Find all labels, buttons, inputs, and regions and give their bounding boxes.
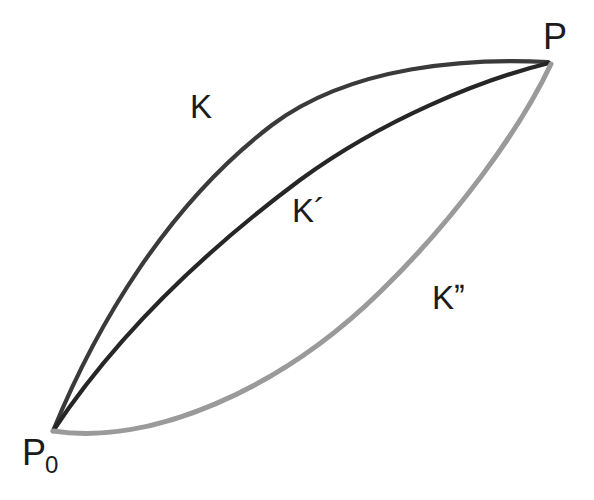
point-label-p: P: [543, 19, 567, 55]
point-label-p0-base: P: [22, 432, 46, 473]
figure-canvas: K K´ Kˮ P P0: [0, 0, 594, 500]
curve-label-k-double-prime: Kˮ: [432, 281, 465, 314]
point-label-p0: P0: [22, 435, 58, 477]
point-label-p0-subscript: 0: [45, 451, 58, 478]
curve-label-k: K: [190, 90, 212, 123]
curves-svg: [0, 0, 594, 500]
curve-label-k-prime: K´: [292, 194, 325, 227]
